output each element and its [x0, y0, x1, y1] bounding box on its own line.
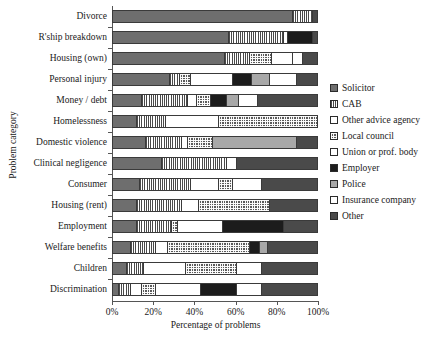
bar-segment-other-advice-agency[interactable]: [156, 242, 168, 253]
bar-segment-cab[interactable]: [127, 263, 143, 274]
bar-segment-local-council[interactable]: [197, 95, 211, 106]
bar-segment-employer[interactable]: [223, 221, 284, 232]
bar-segment-solicitor[interactable]: [113, 32, 229, 43]
bar-segment-local-council[interactable]: [180, 74, 190, 85]
legend-item-union-or-prof-body[interactable]: Union or prof. body: [330, 144, 433, 160]
bar-segment-cab[interactable]: [146, 137, 183, 148]
bar-segment-union-or-prof-body[interactable]: [178, 221, 223, 232]
bar-segment-cab[interactable]: [131, 242, 155, 253]
legend-item-other[interactable]: Other: [330, 208, 433, 224]
bar-segment-employer[interactable]: [288, 32, 312, 43]
bar-segment-insurance-company[interactable]: [233, 179, 262, 190]
bar-segment-other-advice-agency[interactable]: [191, 179, 220, 190]
bar-segment-employer[interactable]: [250, 242, 260, 253]
legend-item-insurance-company[interactable]: Insurance company: [330, 192, 433, 208]
bar-segment-local-council[interactable]: [219, 179, 233, 190]
bar-segment-solicitor[interactable]: [113, 200, 137, 211]
bar-segment-police[interactable]: [213, 137, 297, 148]
bar-segment-cab[interactable]: [162, 158, 227, 169]
bar-segment-other[interactable]: [313, 32, 317, 43]
stacked-bar[interactable]: [112, 52, 318, 65]
bar-segment-local-council[interactable]: [188, 137, 212, 148]
bar-segment-local-council[interactable]: [142, 284, 156, 295]
bar-segment-police[interactable]: [260, 242, 268, 253]
bar-segment-other[interactable]: [284, 221, 317, 232]
bar-segment-solicitor[interactable]: [113, 74, 170, 85]
bar-segment-local-council[interactable]: [199, 200, 270, 211]
bar-segment-insurance-company[interactable]: [270, 74, 297, 85]
bar-segment-cab[interactable]: [142, 95, 189, 106]
bar-segment-other[interactable]: [262, 284, 317, 295]
stacked-bar[interactable]: [112, 283, 318, 296]
bar-segment-solicitor[interactable]: [113, 158, 162, 169]
bar-segment-solicitor[interactable]: [113, 116, 137, 127]
bar-segment-other[interactable]: [297, 137, 317, 148]
bar-segment-cab[interactable]: [137, 200, 182, 211]
bar-segment-other[interactable]: [258, 95, 317, 106]
stacked-bar[interactable]: [112, 136, 318, 149]
stacked-bar[interactable]: [112, 241, 318, 254]
bar-segment-other-advice-agency[interactable]: [227, 158, 237, 169]
bar-segment-other-advice-agency[interactable]: [131, 284, 141, 295]
bar-segment-solicitor[interactable]: [113, 179, 140, 190]
bar-segment-other[interactable]: [297, 74, 317, 85]
bar-segment-insurance-company[interactable]: [239, 95, 257, 106]
bar-segment-cab[interactable]: [293, 11, 313, 22]
legend-item-solicitor[interactable]: Solicitor: [330, 80, 433, 96]
bar-segment-local-council[interactable]: [186, 263, 237, 274]
stacked-bar[interactable]: [112, 157, 318, 170]
legend-item-local-council[interactable]: Local council: [330, 128, 433, 144]
stacked-bar[interactable]: [112, 10, 318, 23]
bar-segment-employer[interactable]: [233, 74, 251, 85]
bar-segment-insurance-company[interactable]: [237, 263, 261, 274]
bar-segment-other[interactable]: [262, 179, 317, 190]
bar-segment-cab[interactable]: [229, 32, 284, 43]
bar-segment-local-council[interactable]: [168, 242, 250, 253]
bar-segment-cab[interactable]: [119, 284, 131, 295]
bar-segment-solicitor[interactable]: [113, 11, 293, 22]
legend-item-police[interactable]: Police: [330, 176, 433, 192]
bar-segment-other[interactable]: [313, 11, 317, 22]
stacked-bar[interactable]: [112, 94, 318, 107]
bar-segment-other-advice-agency[interactable]: [182, 200, 198, 211]
bar-segment-local-council[interactable]: [250, 53, 272, 64]
bar-segment-union-or-prof-body[interactable]: [191, 74, 234, 85]
bar-segment-solicitor[interactable]: [113, 95, 142, 106]
bar-segment-solicitor[interactable]: [113, 221, 137, 232]
bar-segment-police[interactable]: [252, 74, 270, 85]
stacked-bar[interactable]: [112, 73, 318, 86]
bar-segment-other-advice-agency[interactable]: [166, 116, 219, 127]
bar-segment-local-council[interactable]: [219, 116, 317, 127]
bar-segment-other[interactable]: [262, 263, 317, 274]
bar-segment-cab[interactable]: [137, 221, 172, 232]
bar-segment-cab[interactable]: [170, 74, 180, 85]
bar-segment-other[interactable]: [270, 200, 317, 211]
bar-segment-insurance-company[interactable]: [293, 53, 303, 64]
bar-segment-union-or-prof-body[interactable]: [272, 53, 292, 64]
bar-segment-cab[interactable]: [225, 53, 249, 64]
legend-item-employer[interactable]: Employer: [330, 160, 433, 176]
legend-item-cab[interactable]: CAB: [330, 96, 433, 112]
bar-segment-insurance-company[interactable]: [237, 284, 261, 295]
bar-segment-solicitor[interactable]: [113, 137, 146, 148]
bar-segment-solicitor[interactable]: [113, 242, 131, 253]
bar-segment-employer[interactable]: [211, 95, 227, 106]
bar-segment-solicitor[interactable]: [113, 53, 225, 64]
bar-segment-cab[interactable]: [137, 116, 166, 127]
bar-segment-union-or-prof-body[interactable]: [156, 284, 201, 295]
legend-item-other-advice-agency[interactable]: Other advice agency: [330, 112, 433, 128]
bar-segment-other[interactable]: [268, 242, 317, 253]
stacked-bar[interactable]: [112, 178, 318, 191]
bar-segment-other[interactable]: [237, 158, 317, 169]
bar-segment-other[interactable]: [303, 53, 317, 64]
bar-segment-cab[interactable]: [140, 179, 191, 190]
bar-segment-employer[interactable]: [201, 284, 238, 295]
bar-segment-solicitor[interactable]: [113, 263, 127, 274]
stacked-bar[interactable]: [112, 220, 318, 233]
stacked-bar[interactable]: [112, 262, 318, 275]
stacked-bar[interactable]: [112, 199, 318, 212]
stacked-bar[interactable]: [112, 115, 318, 128]
bar-segment-other-advice-agency[interactable]: [188, 95, 196, 106]
bar-segment-police[interactable]: [227, 95, 239, 106]
bar-segment-other-advice-agency[interactable]: [144, 263, 187, 274]
